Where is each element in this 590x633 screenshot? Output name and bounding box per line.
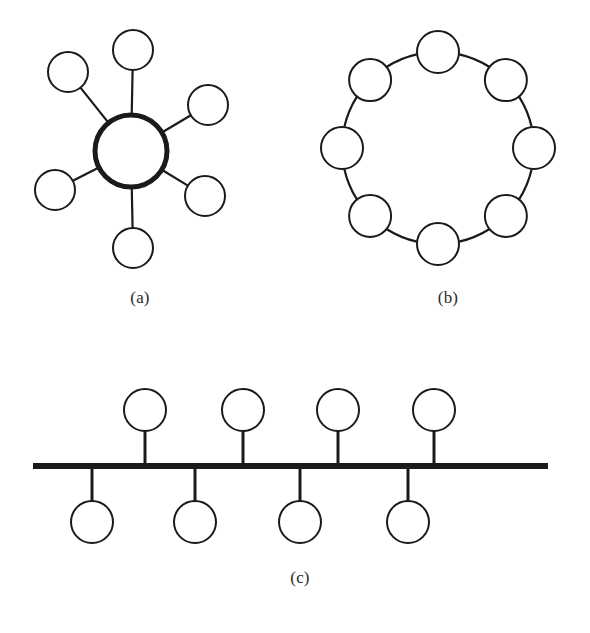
star-hub-node [95, 115, 167, 187]
topology-diagram [0, 0, 590, 633]
ring-edge [387, 54, 417, 66]
node-bottom [113, 228, 153, 268]
node-top [113, 30, 153, 70]
node-upper-right [188, 85, 228, 125]
caption-c: (c) [270, 568, 330, 588]
ring-node-2 [485, 59, 527, 101]
node-below-4 [387, 501, 429, 543]
ring-node-8 [349, 59, 391, 101]
node-upper-left [48, 52, 88, 92]
node-below-3 [279, 501, 321, 543]
ring-node-6 [349, 195, 391, 237]
ring-node-5 [417, 223, 459, 265]
ring-node-7 [321, 127, 363, 169]
ring-node-3 [513, 127, 555, 169]
figure-page: (a) (b) (c) [0, 0, 590, 633]
star-edge [132, 186, 133, 229]
panel-ring-topology [321, 31, 555, 265]
node-lower-left [35, 170, 75, 210]
star-edge [132, 69, 133, 116]
node-below-1 [71, 501, 113, 543]
ring-edge [459, 229, 489, 241]
star-edge [161, 169, 189, 186]
node-below-2 [174, 501, 216, 543]
node-above-1 [124, 389, 166, 431]
node-above-3 [317, 389, 359, 431]
star-edge [72, 167, 100, 181]
caption-b: (b) [418, 288, 478, 308]
ring-edge [519, 169, 531, 199]
node-above-2 [222, 389, 264, 431]
star-edge [161, 115, 192, 133]
panel-bus-topology [33, 389, 548, 543]
ring-edge [459, 54, 489, 66]
ring-edge [519, 97, 531, 127]
node-above-4 [413, 389, 455, 431]
star-edge [80, 87, 109, 124]
caption-a: (a) [110, 288, 170, 308]
panel-star-topology [35, 30, 228, 268]
ring-node-4 [485, 195, 527, 237]
node-lower-right [185, 176, 225, 216]
ring-edge [344, 169, 356, 199]
ring-edge [387, 229, 417, 241]
ring-edge [344, 97, 356, 127]
ring-node-1 [417, 31, 459, 73]
